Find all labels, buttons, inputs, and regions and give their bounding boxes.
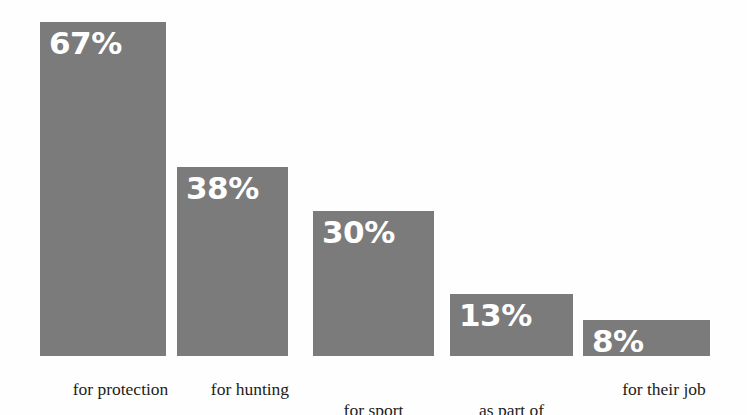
- bar-label-sport-shooting-line1: for sport: [343, 400, 403, 415]
- bar-value-gun-collection: 13%: [459, 298, 532, 334]
- bar-sport-shooting[interactable]: 30%: [313, 211, 434, 356]
- bar-value-their-job: 8%: [592, 324, 644, 360]
- bar-group-protection: 67% for protection: [40, 22, 166, 356]
- bar-group-their-job: 8% for their job: [583, 320, 710, 356]
- bar-group-gun-collection: 13% as part of a gun collection: [450, 294, 573, 356]
- bar-label-protection-line1: for protection: [73, 379, 169, 399]
- bar-label-hunting-line1: for hunting: [211, 379, 289, 399]
- bar-gun-collection[interactable]: 13%: [450, 294, 573, 356]
- bar-chart: 67% for protection 38% for hunting 30% f…: [0, 0, 747, 415]
- bar-protection[interactable]: 67%: [40, 22, 166, 356]
- bar-group-sport-shooting: 30% for sport shooting: [313, 211, 434, 356]
- bars-area: 67% for protection 38% for hunting 30% f…: [0, 0, 747, 415]
- bar-label-hunting: for hunting: [176, 359, 289, 415]
- bar-label-sport-shooting: for sport shooting: [343, 359, 403, 415]
- bar-hunting[interactable]: 38%: [177, 167, 288, 356]
- bar-label-gun-collection: as part of a gun collection: [456, 359, 568, 415]
- bar-label-protection: for protection: [38, 359, 169, 415]
- bar-their-job[interactable]: 8%: [583, 320, 710, 356]
- bar-group-hunting: 38% for hunting: [177, 167, 288, 356]
- bar-value-hunting: 38%: [186, 171, 259, 207]
- bar-label-their-job-line1: for their job: [622, 379, 706, 399]
- bar-label-their-job: for their job: [587, 359, 706, 415]
- bar-label-gun-collection-line1: as part of: [456, 400, 568, 415]
- bar-value-sport-shooting: 30%: [322, 215, 395, 251]
- bar-value-protection: 67%: [49, 26, 122, 62]
